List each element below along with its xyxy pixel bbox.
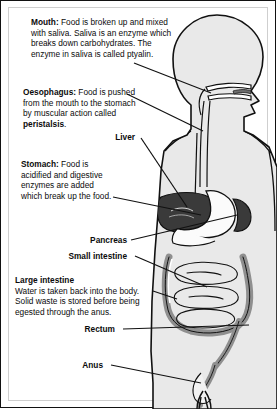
label-stomach: Stomach: Food is acidified and digestive… (21, 159, 113, 201)
label-oesophagus-emphasis: peristalsis (23, 119, 64, 129)
label-pancreas: Pancreas (41, 235, 127, 246)
label-large-intestine-text: Water is taken back into the body. Solid… (15, 286, 155, 318)
label-large-intestine: Large intestine Water is taken back into… (15, 275, 155, 317)
label-stomach-heading: Stomach: (21, 159, 59, 169)
digestive-system-illustration (1, 1, 277, 409)
label-oesophagus-heading: Oesophagus: (23, 87, 76, 97)
label-large-intestine-heading: Large intestine (15, 275, 155, 286)
label-small-intestine: Small intestine (31, 251, 127, 262)
label-liver: Liver (61, 132, 135, 143)
label-mouth: Mouth: Food is broken up and mixed with … (31, 17, 183, 59)
label-oesophagus: Oesophagus: Food is pushed from the mout… (23, 87, 143, 129)
label-anus: Anus (49, 360, 103, 371)
label-mouth-heading: Mouth: (31, 17, 59, 27)
label-oesophagus-tail: . (64, 119, 66, 129)
label-rectum: Rectum (49, 324, 115, 335)
